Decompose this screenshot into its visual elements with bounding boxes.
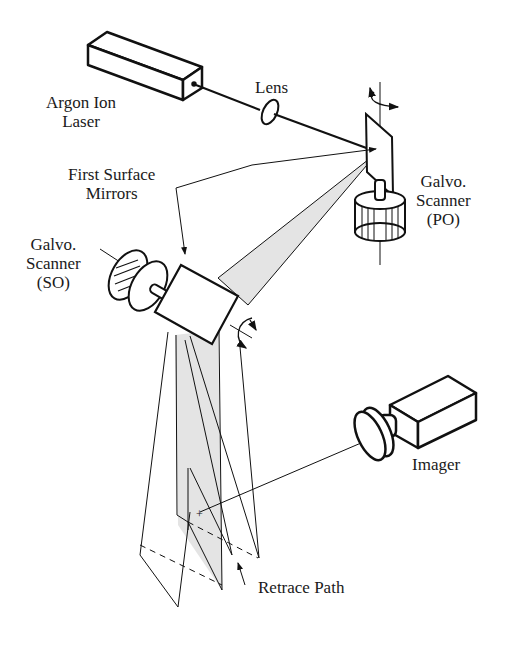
galvo-po-line3: (PO) bbox=[416, 210, 471, 229]
galvo-so-line1: Galvo. bbox=[26, 235, 81, 254]
laser-label-line1: Argon Ion bbox=[46, 93, 116, 112]
lens-icon bbox=[258, 97, 282, 126]
mirrors-pointer-po bbox=[252, 149, 376, 165]
scan-plane bbox=[175, 330, 222, 590]
imager-label: Imager bbox=[412, 455, 460, 474]
galvo-po-label: Galvo. Scanner (PO) bbox=[416, 172, 471, 229]
laser-label: Argon Ion Laser bbox=[46, 93, 116, 131]
laser-beam bbox=[196, 85, 260, 110]
galvo-so-label: Galvo. Scanner (SO) bbox=[26, 235, 81, 292]
galvo-po-line1: Galvo. bbox=[416, 172, 471, 191]
mirrors-label: First Surface Mirrors bbox=[68, 165, 155, 203]
mirrors-pointer-so bbox=[176, 188, 185, 254]
laser-label-line2: Laser bbox=[46, 112, 116, 131]
retrace-pointer bbox=[238, 563, 245, 585]
mirrors-label-line2: Mirrors bbox=[68, 184, 155, 203]
imager-icon bbox=[348, 376, 476, 465]
mirrors-label-line1: First Surface bbox=[68, 165, 155, 184]
galvo-so-line3: (SO) bbox=[26, 273, 81, 292]
po-rotation-arrow bbox=[371, 92, 398, 107]
po-galvo-scanner-icon bbox=[355, 180, 405, 241]
argon-laser-icon bbox=[88, 32, 202, 100]
diagram-canvas: + Argon Ion Laser Lens First Surface Mir… bbox=[0, 0, 510, 645]
so-rotation-arrow bbox=[238, 318, 252, 348]
svg-text:+: + bbox=[196, 507, 203, 521]
galvo-so-line2: Scanner bbox=[26, 254, 81, 273]
galvo-po-line2: Scanner bbox=[416, 191, 471, 210]
lens-label: Lens bbox=[255, 78, 288, 97]
retrace-label: Retrace Path bbox=[258, 578, 344, 597]
